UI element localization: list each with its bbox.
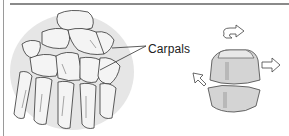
carpals-label: Carpals	[148, 42, 190, 56]
arrow-right-icon	[262, 58, 280, 72]
wrist-bones-illustration	[0, 0, 289, 136]
curved-arrow-icon	[223, 25, 244, 38]
figure-frame: Carpals	[0, 0, 289, 136]
arrow-up-left-icon	[193, 73, 206, 86]
carpal-block-model	[208, 50, 260, 112]
